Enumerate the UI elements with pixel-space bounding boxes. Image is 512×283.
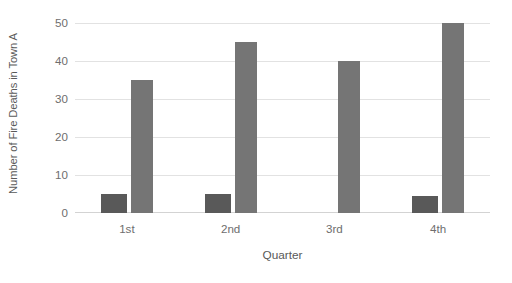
y-axis-tick-label: 10 [34, 169, 68, 181]
y-axis-tick-labels: 01020304050 [34, 0, 68, 283]
bar [205, 194, 231, 213]
bar [131, 80, 153, 213]
y-axis-title: Number of Fire Deaths in Town A [0, 7, 26, 220]
x-axis-tick-label: 4th [430, 222, 446, 235]
y-axis-tick-label: 0 [34, 207, 68, 219]
x-axis-tick-label: 3rd [326, 222, 343, 235]
gridline [75, 23, 490, 24]
bar [412, 196, 438, 213]
bar [235, 42, 257, 213]
bar [442, 23, 464, 213]
x-axis-title: Quarter [75, 248, 490, 262]
x-axis-tick-label: 1st [119, 222, 134, 235]
bar [338, 61, 360, 213]
x-axis-tick-label: 2nd [221, 222, 240, 235]
y-axis-tick-label: 40 [34, 55, 68, 67]
bar [101, 194, 127, 213]
y-axis-tick-label: 50 [34, 17, 68, 29]
plot-area [75, 23, 490, 213]
y-axis-tick-label: 30 [34, 93, 68, 105]
y-axis-tick-label: 20 [34, 131, 68, 143]
gridline [75, 61, 490, 62]
bar-chart: Number of Fire Deaths in Town A 01020304… [0, 0, 512, 283]
x-axis-tick-labels: 1st2nd3rd4th [75, 222, 490, 242]
